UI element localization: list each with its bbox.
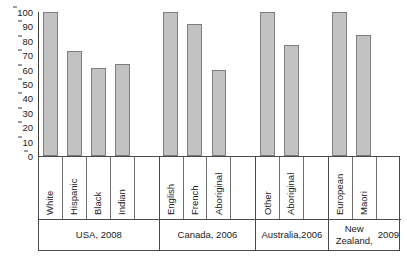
group-name-line: USA, 2008 [76,229,122,241]
category-cell-row: EnglishFrenchAboriginal [160,157,256,219]
y-axis-tick-90: 90 [22,21,33,32]
bar [67,51,82,156]
y-axis-tick-40: 40 [22,93,33,104]
category-label: Black [93,192,103,215]
y-axis-tick-0: 0 [28,151,33,162]
bar [91,68,106,156]
bar [43,12,58,156]
category-label: White [45,191,55,215]
y-axis-tick-mark [18,64,22,65]
group-block: WhiteHispanicBlackIndianUSA, 2008 [39,157,160,250]
category-cell: Indian [111,157,135,219]
category-cell-row: OtherAboriginal [256,157,327,219]
y-axis-tick-mark [18,21,22,22]
y-axis-tick-mark [24,151,28,152]
category-cell: Black [87,157,111,219]
group-block: OtherAboriginalAustralia,2006 [256,157,328,250]
y-axis-tick-mark [18,35,22,36]
bar [163,12,178,156]
bar-chart: 1009080706050403020100 WhiteHispanicBlac… [0,0,407,261]
y-axis-tick-mark [18,50,22,51]
category-cell: Maori [353,157,377,219]
y-axis-tick-mark [18,107,22,108]
category-cell-spacer [304,157,328,219]
y-axis-tick-70: 70 [22,50,33,61]
bar [260,12,275,156]
category-label: European [335,174,345,215]
category-label: Hispanic [69,179,79,215]
y-axis-tick-100: 100 [17,7,33,18]
y-axis-tick-60: 60 [22,64,33,75]
bar [212,70,227,156]
category-label-grid: WhiteHispanicBlackIndianUSA, 2008English… [38,156,400,251]
y-axis-tick-mark [18,79,22,80]
category-label: Other [263,191,273,215]
category-label: French [190,185,200,215]
bar [115,64,130,156]
category-label: English [166,184,176,215]
y-axis-tick-30: 30 [22,107,33,118]
category-cell-spacer [135,157,159,219]
group-name-label: USA, 2008 [39,219,159,250]
group-name-label: Australia,2006 [256,219,327,250]
category-cell: Aboriginal [280,157,304,219]
category-cell: European [329,157,353,219]
group-block: EuropeanMaoriNew Zealand,2009 [329,157,401,250]
y-axis-tick-mark [13,7,17,8]
category-cell-spacer [231,157,255,219]
bar [332,12,347,156]
category-label: Aboriginal [214,173,224,215]
y-axis-tick-80: 80 [22,35,33,46]
group-name-line: 2009 [378,229,399,241]
group-name-label: Canada, 2006 [160,219,256,250]
category-cell: Other [256,157,280,219]
y-axis-tick-50: 50 [22,79,33,90]
group-name-line: New Zealand, [331,223,378,247]
category-cell-row: WhiteHispanicBlackIndian [39,157,159,219]
group-block: EnglishFrenchAboriginalCanada, 2006 [160,157,257,250]
y-axis-tick-10: 10 [22,136,33,147]
bar [284,45,299,156]
group-name-line: Canada, 2006 [178,229,238,241]
y-axis-tick-mark [18,136,22,137]
bars-layer [38,12,400,156]
category-cell: English [160,157,184,219]
bar [187,24,202,156]
category-cell: Hispanic [63,157,87,219]
y-axis-tick-mark [18,93,22,94]
group-name-line: 2006 [301,229,322,241]
group-name-line: Australia, [262,229,302,241]
bar [356,35,371,156]
y-axis-tick-labels: 1009080706050403020100 [2,12,38,156]
category-cell-row: EuropeanMaori [329,157,401,219]
category-cell-spacer [377,157,401,219]
y-axis-tick-mark [18,122,22,123]
category-cell: Aboriginal [207,157,231,219]
y-axis-tick-20: 20 [22,122,33,133]
category-label: Indian [117,189,127,215]
category-cell: White [39,157,63,219]
group-name-label: New Zealand,2009 [329,219,401,250]
category-cell: French [184,157,208,219]
category-label: Maori [359,191,369,215]
plot-area: 1009080706050403020100 [38,12,400,156]
category-label: Aboriginal [286,173,296,215]
